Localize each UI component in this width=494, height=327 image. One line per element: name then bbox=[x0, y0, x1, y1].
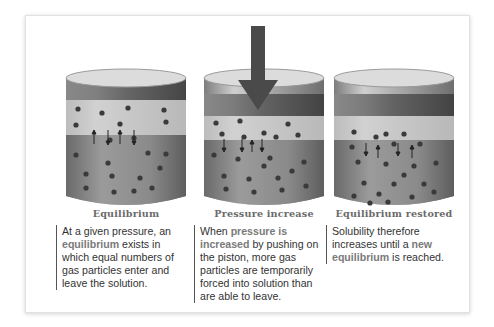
panel-title: Equilibrium restored bbox=[324, 208, 464, 219]
cylinder-equilibrium-restored-illustration bbox=[324, 16, 464, 216]
panel-description: At a given pressure, an equilibrium exis… bbox=[56, 225, 190, 290]
panel-equilibrium-restored: Equilibrium restored Solubility therefor… bbox=[324, 16, 464, 312]
description-text: When bbox=[200, 225, 231, 237]
panel-title: Equilibrium bbox=[56, 208, 196, 219]
highlight-term: equilibrium bbox=[62, 238, 119, 250]
panel-description: Solubility therefore increases until a n… bbox=[326, 225, 450, 264]
cylinder-equilibrium-illustration bbox=[56, 16, 196, 216]
description-text: At a given pressure, an bbox=[62, 225, 171, 237]
panel-description: When pressure is increased by pushing on… bbox=[194, 225, 328, 303]
description-text: Solubility therefore increases until a bbox=[332, 225, 420, 250]
panel-equilibrium: Equilibrium At a given pressure, an equi… bbox=[56, 16, 196, 312]
description-text: is reached. bbox=[389, 251, 444, 263]
pressure-arrow-icon bbox=[236, 26, 286, 112]
panel-pressure-increase: Pressure increase When pressure is incre… bbox=[194, 16, 334, 312]
panel-title: Pressure increase bbox=[194, 208, 334, 219]
figure-card: Equilibrium At a given pressure, an equi… bbox=[25, 15, 470, 313]
